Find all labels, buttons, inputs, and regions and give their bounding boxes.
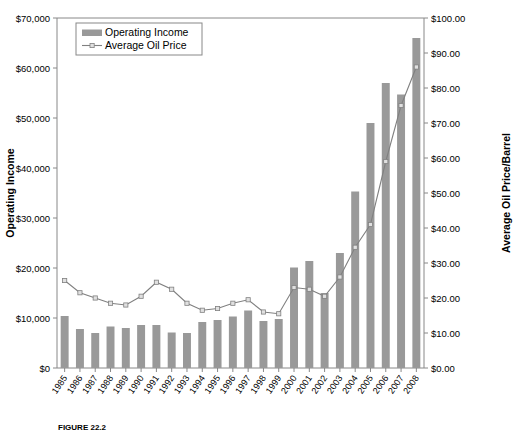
line-average-oil-price bbox=[65, 67, 417, 314]
bar-1990 bbox=[137, 325, 145, 368]
x-tick-label: 1993 bbox=[172, 373, 192, 395]
y-tick-label-right: $50.00 bbox=[431, 188, 460, 199]
x-tick-label: 2003 bbox=[325, 373, 345, 395]
bar-1998 bbox=[259, 321, 267, 368]
bar-1996 bbox=[229, 317, 237, 369]
bar-2003 bbox=[336, 253, 344, 368]
line-marker-2003 bbox=[338, 275, 342, 279]
y-tick-label-right: $20.00 bbox=[431, 293, 460, 304]
bar-1992 bbox=[168, 333, 176, 369]
y-tick-label-right: $0.00 bbox=[431, 363, 455, 374]
y-tick-label-right: $90.00 bbox=[431, 48, 460, 59]
bar-2007 bbox=[397, 95, 405, 369]
line-marker-2000 bbox=[292, 285, 296, 289]
x-tick-label: 2004 bbox=[340, 373, 360, 395]
line-marker-1987 bbox=[93, 296, 97, 300]
bar-1995 bbox=[214, 320, 222, 368]
bar-1997 bbox=[244, 311, 252, 369]
line-marker-1990 bbox=[139, 294, 143, 298]
x-tick-label: 2002 bbox=[310, 373, 330, 395]
line-marker-1996 bbox=[231, 301, 235, 305]
x-tick-label: 1996 bbox=[218, 373, 238, 395]
line-marker-2006 bbox=[384, 159, 388, 163]
x-tick-label: 1992 bbox=[157, 373, 177, 395]
bar-1999 bbox=[275, 319, 283, 368]
bar-2004 bbox=[351, 192, 359, 369]
y-tick-label-left: $30,000 bbox=[16, 213, 50, 224]
y-tick-label-right: $30.00 bbox=[431, 258, 460, 269]
line-marker-1994 bbox=[200, 308, 204, 312]
y-tick-label-left: $10,000 bbox=[16, 313, 50, 324]
chart-canvas: $0$10,000$20,000$30,000$40,000$50,000$60… bbox=[0, 0, 520, 432]
y-tick-label-right: $40.00 bbox=[431, 223, 460, 234]
x-tick-label: 1988 bbox=[95, 373, 115, 395]
bar-2000 bbox=[290, 268, 298, 369]
bar-1991 bbox=[152, 325, 160, 368]
bar-1986 bbox=[76, 329, 84, 368]
figure-caption: FIGURE 22.2 bbox=[58, 423, 107, 432]
y-tick-label-right: $100.00 bbox=[431, 13, 465, 24]
y-tick-label-right: $10.00 bbox=[431, 328, 460, 339]
x-tick-label: 2001 bbox=[294, 373, 314, 395]
x-tick-label: 1998 bbox=[248, 373, 268, 395]
line-marker-1997 bbox=[246, 298, 250, 302]
line-marker-1998 bbox=[261, 310, 265, 314]
bar-2008 bbox=[412, 38, 420, 368]
legend-label-operating-income: Operating Income bbox=[105, 26, 189, 38]
y-tick-label-right: $70.00 bbox=[431, 118, 460, 129]
x-tick-label: 1999 bbox=[264, 373, 284, 395]
line-marker-1992 bbox=[170, 287, 174, 291]
line-marker-1989 bbox=[124, 303, 128, 307]
bar-1993 bbox=[183, 333, 191, 368]
legend-line-marker-icon bbox=[90, 43, 94, 47]
line-marker-1985 bbox=[63, 278, 67, 282]
bar-1987 bbox=[91, 333, 99, 368]
y-tick-label-left: $20,000 bbox=[16, 263, 50, 274]
x-tick-label: 2005 bbox=[355, 373, 375, 395]
x-tick-label: 1991 bbox=[141, 373, 161, 395]
legend-label-average-oil-price: Average Oil Price bbox=[105, 39, 187, 51]
x-tick-label: 2006 bbox=[371, 373, 391, 395]
y-axis-title-right: Average Oil Price/Barrel bbox=[500, 133, 512, 253]
x-tick-label: 1987 bbox=[80, 373, 100, 395]
y-tick-label-left: $0 bbox=[39, 363, 50, 374]
x-tick-label: 2000 bbox=[279, 373, 299, 395]
bar-2006 bbox=[382, 83, 390, 368]
bar-1994 bbox=[198, 322, 206, 368]
figure-container: $0$10,000$20,000$30,000$40,000$50,000$60… bbox=[0, 0, 520, 432]
line-marker-2001 bbox=[307, 287, 311, 291]
bar-2002 bbox=[321, 293, 329, 368]
y-tick-label-right: $80.00 bbox=[431, 83, 460, 94]
x-tick-label: 2008 bbox=[401, 373, 421, 395]
bar-1989 bbox=[122, 328, 130, 368]
y-tick-label-right: $60.00 bbox=[431, 153, 460, 164]
line-marker-2005 bbox=[368, 222, 372, 226]
y-tick-label-left: $70,000 bbox=[16, 13, 50, 24]
bar-2001 bbox=[305, 261, 313, 368]
y-tick-label-left: $50,000 bbox=[16, 113, 50, 124]
legend-swatch-icon bbox=[82, 30, 102, 37]
line-marker-2007 bbox=[399, 103, 403, 107]
x-tick-label: 2007 bbox=[386, 373, 406, 395]
line-marker-2008 bbox=[414, 65, 418, 69]
x-tick-label: 1990 bbox=[126, 373, 146, 395]
x-tick-label: 1995 bbox=[203, 373, 223, 395]
line-marker-2004 bbox=[353, 245, 357, 249]
line-marker-1986 bbox=[78, 291, 82, 295]
x-tick-label: 1994 bbox=[187, 373, 207, 395]
line-marker-1993 bbox=[185, 301, 189, 305]
bar-1985 bbox=[61, 316, 69, 368]
x-tick-label: 1997 bbox=[233, 373, 253, 395]
line-marker-1999 bbox=[277, 312, 281, 316]
y-tick-label-left: $60,000 bbox=[16, 63, 50, 74]
x-tick-label: 1986 bbox=[65, 373, 85, 395]
bar-2005 bbox=[367, 123, 375, 368]
y-tick-label-left: $40,000 bbox=[16, 163, 50, 174]
line-marker-1995 bbox=[215, 306, 219, 310]
line-marker-1988 bbox=[108, 301, 112, 305]
bar-1988 bbox=[107, 327, 115, 369]
x-tick-label: 1985 bbox=[50, 373, 70, 395]
line-marker-2002 bbox=[323, 294, 327, 298]
line-marker-1991 bbox=[154, 280, 158, 284]
x-tick-label: 1989 bbox=[111, 373, 131, 395]
